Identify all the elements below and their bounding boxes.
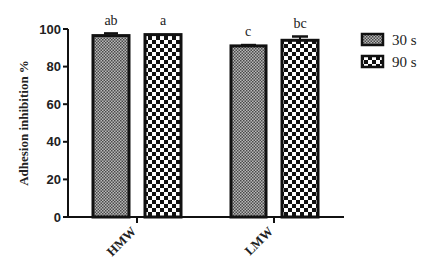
- x-axis: HMW LMW: [67, 217, 344, 259]
- significance-lmw-30s: c: [245, 24, 251, 39]
- legend-item-90s: 90 s: [362, 54, 417, 70]
- significance-hmw-90s: a: [160, 13, 167, 28]
- y-tick-0: 0: [54, 210, 61, 225]
- y-tick-80: 80: [47, 59, 61, 74]
- legend-label-90s: 90 s: [392, 54, 417, 70]
- significance-hmw-30s: ab: [104, 13, 117, 28]
- legend: 30 s 90 s: [362, 32, 417, 70]
- bar-lmw-90s: [282, 40, 318, 217]
- y-axis-label: Adhesion inhibition %: [16, 60, 31, 186]
- legend-swatch-30s: [362, 34, 383, 45]
- legend-label-30s: 30 s: [392, 32, 417, 48]
- y-tick-40: 40: [47, 134, 61, 149]
- legend-item-30s: 30 s: [362, 32, 417, 48]
- significance-lmw-90s: bc: [293, 16, 306, 31]
- x-tick-hmw: HMW: [103, 224, 139, 260]
- legend-swatch-90s: [362, 56, 383, 67]
- y-tick-60: 60: [47, 97, 61, 112]
- bar-hmw-90s: [145, 35, 181, 217]
- bar-hmw-30s: [93, 36, 129, 217]
- y-tick-20: 20: [47, 172, 61, 187]
- bars: ab a c bc: [93, 13, 318, 217]
- bar-chart: Adhesion inhibition % 0 20 40 60 80 100 …: [0, 0, 433, 277]
- y-axis: 0 20 40 60 80 100: [39, 22, 68, 225]
- bar-lmw-30s: [231, 46, 266, 217]
- x-tick-lmw: LMW: [242, 224, 277, 259]
- y-tick-100: 100: [39, 22, 61, 37]
